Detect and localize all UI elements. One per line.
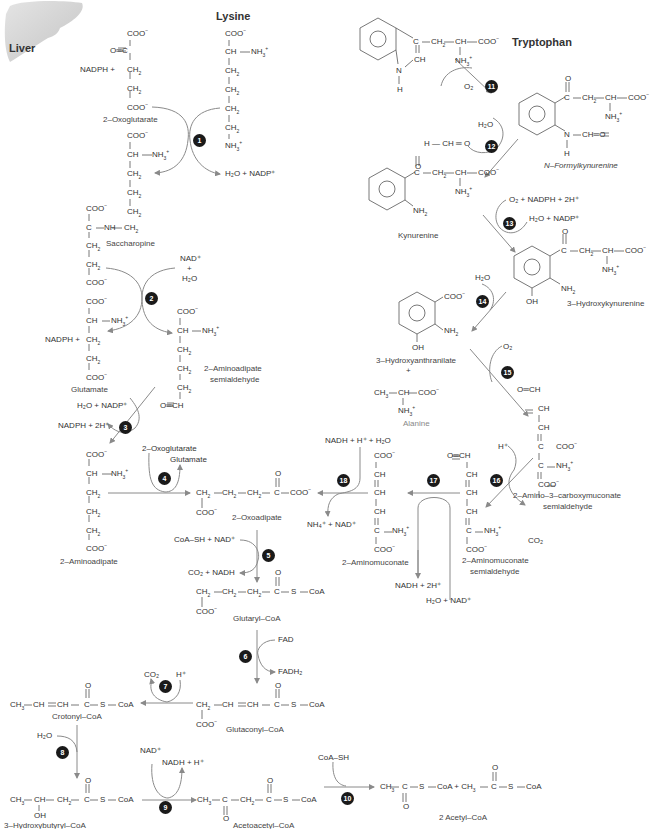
step-badge-7: 7 xyxy=(159,680,172,693)
step-badge-15: 15 xyxy=(501,366,514,379)
step-badge-5: 5 xyxy=(262,549,275,562)
step15-cofactor-in: O₂ xyxy=(503,343,512,351)
step4-cofactor-in: 2–Oxoglutarate xyxy=(142,445,197,453)
compound-glutaconyl-coa: Glutaconyl–CoA xyxy=(226,726,284,734)
compound-ams-line2: semialdehyde xyxy=(470,568,519,576)
step-badge-16: 16 xyxy=(490,474,503,487)
step6-cofactor-out: FADH₂ xyxy=(278,668,302,676)
step3-cofactor-out: NADPH + 2H⁺ xyxy=(58,422,109,430)
step4-cofactor-out: Glutamate xyxy=(170,456,207,464)
lysine-label: Lysine xyxy=(216,11,250,22)
step-badge-9: 9 xyxy=(159,801,172,814)
compound-ams: 2–Aminomuconate xyxy=(462,557,529,565)
step5-cofactor-out: CO₂ + NADH xyxy=(188,569,235,577)
compound-acms-line2: semialdehyde xyxy=(543,503,592,511)
step-badge-1: 1 xyxy=(193,134,206,147)
step18-cofactor-out: NH₄⁺ + NAD⁺ xyxy=(307,521,356,529)
step16-cofactor-in: H⁺ xyxy=(498,443,508,451)
step12-cofactor-in: H₂O xyxy=(478,121,493,129)
step-badge-11: 11 xyxy=(485,80,498,93)
step2-cofactor-out: NADPH + xyxy=(45,336,80,344)
step-badge-10: 10 xyxy=(341,792,354,805)
step5-cofactor-in: CoA–SH + NAD⁺ xyxy=(174,536,235,544)
step11-cofactor-in: O₂ xyxy=(464,83,473,91)
step9-cofactor-in: NAD⁺ xyxy=(140,747,161,755)
compound-oxoadipate: 2–Oxoadipate xyxy=(232,514,282,522)
compound-glutamate: Glutamate xyxy=(71,386,108,394)
step-badge-14: 14 xyxy=(476,295,489,308)
step1-cofactor-out: H₂O + NADP⁺ xyxy=(225,170,275,178)
compound-saccharopine: Saccharopine xyxy=(106,240,155,248)
compound-formylkynurenine: N–Formylkynurenine xyxy=(544,162,618,170)
lysine-tryptophan-degradation-diagram: Liver Lysine Tryptophan COO− O═C NADPH +… xyxy=(0,0,660,829)
step2-cofactor-in: NAD⁺ xyxy=(180,255,201,263)
compound-hydroxyanthranilate: 3–Hydroxyanthranilate xyxy=(376,357,456,365)
step7-cofactor-co2: CO₂ xyxy=(144,671,159,679)
liver-label: Liver xyxy=(9,43,35,54)
compound-oxoglutarate: 2–Oxoglutarate xyxy=(103,116,158,124)
step-badge-12: 12 xyxy=(485,140,498,153)
step-badge-13: 13 xyxy=(503,217,516,230)
step14-cofactor-in: H₂O xyxy=(475,274,490,282)
reaction-arrows xyxy=(0,0,660,829)
compound-alanine: Alanine xyxy=(403,420,430,428)
compound-hydroxykynurenine: 3–Hydroxykynurenine xyxy=(567,300,644,308)
step18-cofactor-in: NADH + H⁺ + H₂O xyxy=(325,437,391,445)
step17-cofactor-out1: NADH + 2H⁺ xyxy=(395,582,441,590)
compound-kynurenine: Kynurenine xyxy=(398,232,438,240)
step17-cofactor-out2: H₂O + NAD⁺ xyxy=(426,597,471,605)
compound-aminoadipate-semialdehyde: 2–Aminoadipate xyxy=(204,365,262,373)
tryptophan-label: Tryptophan xyxy=(512,37,572,48)
step9-cofactor-out: NADH + H⁺ xyxy=(162,759,204,767)
step-badge-4: 4 xyxy=(158,472,171,485)
step-badge-2: 2 xyxy=(145,292,158,305)
compound-aminoadipate-semialdehyde-line2: semialdehyde xyxy=(210,376,259,384)
step7-cofactor-h: H⁺ xyxy=(176,671,186,679)
plus-sign: + xyxy=(406,367,411,375)
step10-cofactor-in: CoA–SH xyxy=(318,754,349,762)
step-badge-6: 6 xyxy=(239,650,252,663)
step-badge-3: 3 xyxy=(119,421,132,434)
step8-cofactor-in: H₂O xyxy=(37,732,52,740)
compound-aminoadipate: 2–Aminoadipate xyxy=(60,558,118,566)
step2-water: H₂O xyxy=(182,275,197,283)
compound-acms: 2–Amino–3–carboxymuconate xyxy=(513,492,621,500)
step3-cofactor-in: H₂O + NADP⁺ xyxy=(77,402,127,410)
compound-acetoacetyl-coa: Acetoacetyl–CoA xyxy=(233,822,294,829)
compound-crotonyl-coa: Crotonyl–CoA xyxy=(52,713,102,721)
plus-sign: + xyxy=(187,265,192,273)
compound-aminomuconate: 2–Aminomuconate xyxy=(342,559,409,567)
step-badge-8: 8 xyxy=(56,746,69,759)
step13-cofactor-out: H₂O + NADP⁺ xyxy=(529,215,579,223)
compound-hydroxybutyryl-coa: 3–Hydroxybutyryl–CoA xyxy=(4,822,86,829)
compound-glutaryl-coa: Glutaryl–CoA xyxy=(233,615,281,623)
step6-cofactor-in: FAD xyxy=(278,636,294,644)
step-badge-17: 17 xyxy=(427,474,440,487)
step16-cofactor-out: CO₂ xyxy=(528,537,543,545)
step1-cofactor-in: NADPH + xyxy=(80,66,115,74)
step-badge-18: 18 xyxy=(337,474,350,487)
compound-acetyl-coa: 2 Acetyl–CoA xyxy=(439,814,487,822)
step12-cofactor-out: H — CH ═ O xyxy=(424,140,470,148)
step13-cofactor-in: O₂ + NADPH + 2H⁺ xyxy=(509,196,579,204)
